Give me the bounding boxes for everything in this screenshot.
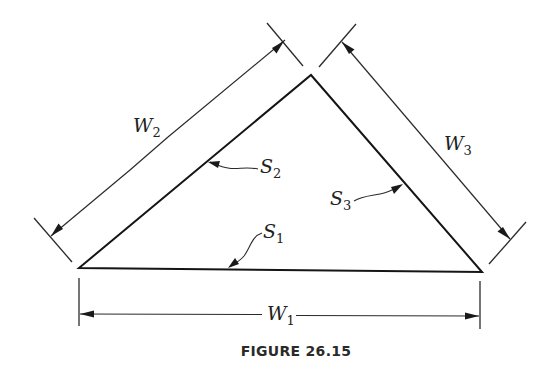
s3-label: S3 [330, 187, 351, 213]
w3-extension-top [319, 24, 356, 67]
triangle-figure: W1 W2 W3 S2 [0, 0, 553, 370]
w2-extension-bottom [34, 218, 72, 262]
side-s3-callout: S3 [330, 184, 403, 213]
w2-dimension-line-mid [130, 137, 168, 170]
w1-dimension-line-left [80, 314, 262, 315]
s1-arrow-icon [228, 258, 239, 268]
w1-arrow-right-icon [465, 313, 479, 320]
w1-label: W1 [267, 302, 295, 328]
w2-dimension-line-lower [51, 170, 130, 236]
s2-arrow-icon [208, 161, 220, 168]
side-s2-callout: S2 [208, 155, 281, 181]
s3-arrow-icon [391, 184, 403, 194]
w2-arrow-top-icon [272, 41, 284, 54]
s1-label: S1 [263, 220, 284, 246]
s2-label: S2 [260, 155, 281, 181]
w2-dimension-line-upper [168, 40, 285, 137]
w3-arrow-bottom-icon [498, 227, 511, 239]
figure-caption: FIGURE 26.15 [241, 343, 352, 359]
dimension-w3: W3 [319, 24, 526, 264]
w2-label: W2 [133, 114, 161, 140]
w2-arrow-bottom-icon [51, 224, 63, 237]
w3-arrow-top-icon [342, 42, 355, 54]
side-s1-callout: S1 [228, 220, 284, 268]
w2-extension-top [267, 23, 303, 66]
w3-extension-bottom [489, 222, 526, 264]
dimension-w1: W1 [79, 278, 480, 329]
w1-dimension-line-right [296, 316, 479, 317]
w1-arrow-left-icon [80, 311, 94, 318]
